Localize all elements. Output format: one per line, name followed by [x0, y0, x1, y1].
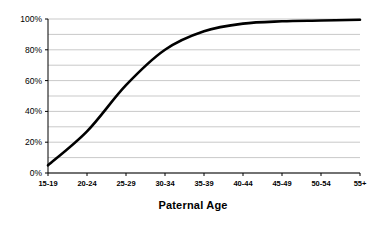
- x-axis-tick-label: 30-34: [155, 179, 175, 188]
- y-axis-tick-label: 60%: [25, 76, 42, 86]
- x-axis-tick-label: 25-29: [116, 179, 135, 188]
- x-axis-tick-label: 20-24: [77, 179, 97, 188]
- x-axis-tick-label: 55+: [354, 179, 367, 188]
- y-axis-tick-label: 0%: [30, 168, 43, 178]
- x-axis-tick-label: 45-49: [272, 179, 291, 188]
- x-axis-tick-labels: 15-1920-2425-2930-3435-3940-4445-4950-54…: [38, 179, 367, 188]
- x-axis-tick-label: 50-54: [311, 179, 331, 188]
- y-axis-tick-label: 20%: [25, 137, 42, 147]
- x-axis-tick-label: 15-19: [38, 179, 57, 188]
- y-axis-tick-label: 80%: [25, 45, 42, 55]
- chart-container: 0%20%40%60%80%100% 15-1920-2425-2930-343…: [0, 0, 386, 234]
- y-axis-tick-label: 40%: [25, 106, 42, 116]
- x-axis-title: Paternal Age: [0, 199, 386, 211]
- x-axis-tick-label: 40-44: [233, 179, 253, 188]
- y-axis-tick-label: 100%: [20, 14, 42, 24]
- x-axis-tick-label: 35-39: [194, 179, 213, 188]
